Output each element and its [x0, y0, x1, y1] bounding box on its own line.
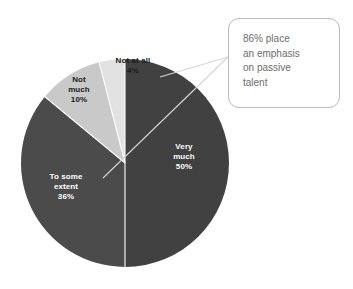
callout-line-2: an emphasis — [243, 47, 339, 62]
chart-canvas: Very much 50% To some extent 36% Not muc… — [0, 0, 353, 289]
passive-talent-callout: 86% place an emphasis on passive talent — [228, 18, 340, 108]
callout-line-3: on passive — [243, 61, 339, 76]
callout-text: 86% place an emphasis on passive talent — [243, 32, 339, 90]
callout-line-4: talent — [243, 76, 339, 91]
pie-slice-very-much[interactable] — [125, 59, 229, 267]
callout-line-1: 86% place — [243, 32, 339, 47]
